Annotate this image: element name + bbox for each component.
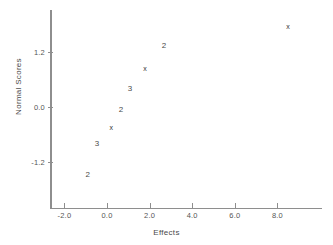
x-axis-title: Effects [0,228,333,237]
x-axis-spine [50,208,322,210]
x-tick-label: -2.0 [58,211,72,220]
x-tick [235,203,236,208]
normal-probability-plot: -2.00.02.04.06.08.0 1.20.0-1.2 23x23x2x … [0,0,333,245]
x-tick [192,203,193,208]
data-point-count-label: 2 [162,42,166,50]
y-tick-label: -1.2 [31,157,45,166]
x-tick [150,203,151,208]
y-tick [48,107,53,108]
y-tick [48,162,53,163]
x-tick-label: 0.0 [101,211,112,220]
y-axis-title: Normal Scores [14,32,23,142]
data-point-count-label: 3 [95,140,99,148]
data-point-marker: x [110,123,114,130]
x-tick [64,203,65,208]
data-point-marker: x [143,64,147,71]
x-tick-label: 2.0 [144,211,155,220]
data-point-count-label: 3 [128,85,132,93]
data-point-marker: x [286,22,290,29]
y-tick [48,52,53,53]
x-tick-label: 6.0 [229,211,240,220]
x-tick [107,203,108,208]
y-axis-spine [50,10,52,208]
x-tick-label: 4.0 [187,211,198,220]
y-tick-label: 0.0 [34,103,45,112]
data-point-count-label: 2 [86,171,90,179]
y-tick-label: 1.2 [34,48,45,57]
x-tick [277,203,278,208]
x-tick-label: 8.0 [272,211,283,220]
data-point-count-label: 2 [119,106,123,114]
